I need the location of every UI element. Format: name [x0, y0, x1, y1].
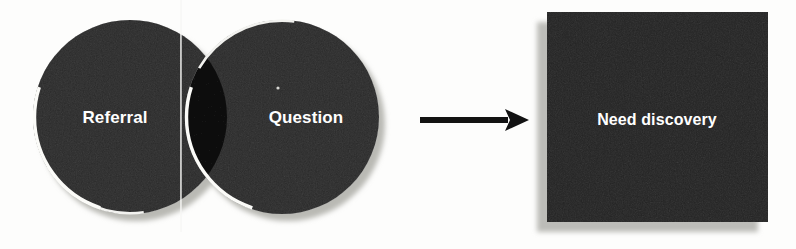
venn-need-discovery-diagram: Referral Question Need discovery	[0, 0, 796, 249]
result-group: Need discovery	[537, 12, 768, 232]
venn-left-label: Referral	[82, 108, 147, 127]
scan-fold-line	[180, 0, 182, 232]
arrow-shaft	[420, 117, 508, 123]
result-label: Need discovery	[597, 111, 717, 128]
arrow-head-icon	[505, 109, 529, 131]
leads-to-arrow	[420, 109, 529, 131]
scan-speck	[276, 86, 279, 89]
diagram-canvas: Referral Question Need discovery	[0, 0, 796, 249]
venn-right-label: Question	[269, 108, 343, 127]
